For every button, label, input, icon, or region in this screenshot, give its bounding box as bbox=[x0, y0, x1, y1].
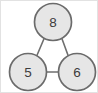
graph-node-top[interactable]: 8 bbox=[35, 4, 72, 41]
node-layer: 8 5 6 bbox=[10, 4, 96, 91]
graph-edge-8-6 bbox=[62, 38, 68, 55]
graph-node-bottom-right[interactable]: 6 bbox=[59, 54, 96, 91]
graph-node-top-label: 8 bbox=[49, 15, 57, 30]
graph-figure: 8 5 6 bbox=[0, 0, 98, 93]
graph-node-bottom-left[interactable]: 5 bbox=[10, 54, 47, 91]
graph-edge-8-5 bbox=[37, 38, 44, 55]
graph-node-bottom-left-label: 5 bbox=[24, 65, 32, 80]
graph-canvas: 8 5 6 bbox=[1, 1, 98, 93]
graph-node-bottom-right-label: 6 bbox=[73, 65, 81, 80]
